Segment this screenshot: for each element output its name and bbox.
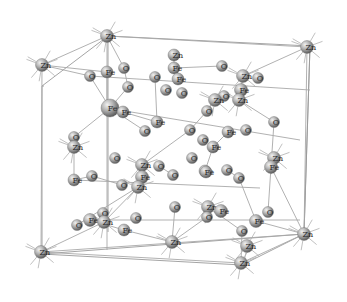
atom-o: O: [198, 135, 209, 146]
atoms: ZnZnZnZnOOFeFeOZnOOFeOOFeOOZnZnFeOFeFeOO…: [35, 30, 317, 270]
atom-label: Fe: [156, 118, 166, 127]
atom-o: O: [241, 125, 252, 136]
atom-fe: Fe: [101, 66, 116, 78]
atom-label: Zn: [102, 218, 113, 227]
atom-label: Zn: [173, 51, 184, 60]
atom-label: Zn: [305, 43, 316, 52]
atom-label: O: [121, 181, 128, 190]
atom-label: Zn: [213, 96, 224, 105]
bond: [107, 36, 307, 47]
bond-stub: [312, 51, 320, 57]
atom-label: Fe: [88, 216, 98, 225]
bond-stub: [246, 62, 251, 71]
atom-label: Zn: [140, 161, 151, 170]
bond-stub: [79, 151, 87, 157]
atom-label: O: [172, 171, 179, 180]
atom-fe: Fe: [151, 116, 166, 128]
bond: [268, 167, 271, 212]
atom-o: O: [202, 212, 213, 223]
atom-label: O: [267, 208, 274, 217]
atom-label: Fe: [177, 75, 187, 84]
atom-label: O: [202, 136, 209, 145]
bond-stub: [110, 22, 115, 31]
bond: [243, 47, 307, 76]
bond-stub: [101, 228, 103, 238]
bond-stub: [296, 52, 302, 60]
atom-label: O: [123, 64, 130, 73]
atom-label: Fe: [212, 143, 222, 152]
atom-label: Zn: [39, 248, 50, 257]
atom-label: O: [191, 154, 198, 163]
atom-o: O: [263, 207, 274, 218]
atom-label: Zn: [170, 238, 181, 247]
bond-stub: [230, 268, 236, 276]
atom-zn: Zn: [235, 257, 251, 270]
atom-label: O: [158, 162, 165, 171]
atom-o: O: [72, 220, 83, 231]
atom-label: O: [135, 214, 142, 223]
bond-stub: [46, 256, 54, 262]
bond-stub: [252, 250, 260, 256]
bond-stub: [250, 232, 255, 241]
atom-label: Zn: [40, 61, 51, 70]
atom-zn: Zn: [98, 216, 114, 229]
bond: [41, 252, 241, 263]
atom-zn: Zn: [241, 240, 257, 253]
bond-stub: [47, 69, 55, 75]
lattice-canvas: ZnZnZnZnOOFeFeOZnOOFeOOFeOOZnZnFeOFeFeOO…: [0, 0, 347, 302]
atom-label: Zn: [302, 230, 313, 239]
bond-stub: [143, 191, 151, 197]
atom-o: O: [269, 117, 280, 128]
atom-o: O: [150, 72, 161, 83]
atom-o: O: [140, 126, 151, 137]
bond-stub: [236, 106, 238, 116]
atom-o: O: [85, 71, 96, 82]
atom-o: O: [87, 171, 98, 182]
atom-label: Fe: [122, 108, 132, 117]
atom-o: O: [253, 73, 264, 84]
atom-label: O: [226, 166, 233, 175]
atom-fe: Fe: [172, 73, 187, 85]
atom-o: O: [187, 153, 198, 164]
atom-zn: Zn: [166, 236, 182, 249]
bond-stub: [145, 151, 150, 160]
atom-zn: Zn: [35, 246, 51, 259]
bond-stub: [309, 238, 317, 244]
atom-label: O: [91, 172, 98, 181]
atom-label: O: [76, 221, 83, 230]
atom-o: O: [202, 106, 213, 117]
bond-stub: [44, 238, 49, 247]
atom-o: O: [119, 63, 130, 74]
bond-stub: [177, 246, 185, 252]
atom-label: O: [127, 83, 134, 92]
atom-fe: Fe: [84, 214, 99, 227]
atom-label: Zn: [237, 96, 248, 105]
atom-label: Zn: [105, 32, 116, 41]
atom-label: O: [257, 74, 264, 83]
bond-stub: [161, 247, 167, 255]
bond-stub: [31, 70, 37, 78]
bond-stub: [30, 257, 36, 265]
crystal-structure-diagram: ZnZnZnZnOOFeFeOZnOOFeOOFeOOZnZnFeOFeFeOO…: [0, 0, 347, 302]
atom-fe: Fe: [215, 205, 230, 218]
atom-fe: Fe: [250, 215, 265, 228]
atom-zn: Zn: [301, 41, 317, 54]
bond-stub: [293, 239, 299, 247]
atom-fe: Fe: [101, 99, 119, 117]
atom-fe: Fe: [117, 106, 132, 118]
atom-label: O: [144, 127, 151, 136]
atom-label: O: [238, 174, 245, 183]
bond-stub: [39, 71, 41, 81]
atom-o: O: [154, 161, 165, 172]
atom-zn: Zn: [101, 30, 117, 43]
atom-fe: Fe: [68, 174, 83, 186]
atom-o: O: [161, 85, 172, 96]
atom-label: O: [114, 154, 121, 163]
bond-stub: [175, 228, 180, 237]
atom-label: Zn: [239, 259, 250, 268]
bond: [155, 77, 157, 122]
bond-stub: [169, 248, 171, 258]
atom-label: Fe: [173, 64, 183, 73]
atom-label: Fe: [227, 128, 237, 137]
atom-fe: Fe: [265, 161, 280, 174]
